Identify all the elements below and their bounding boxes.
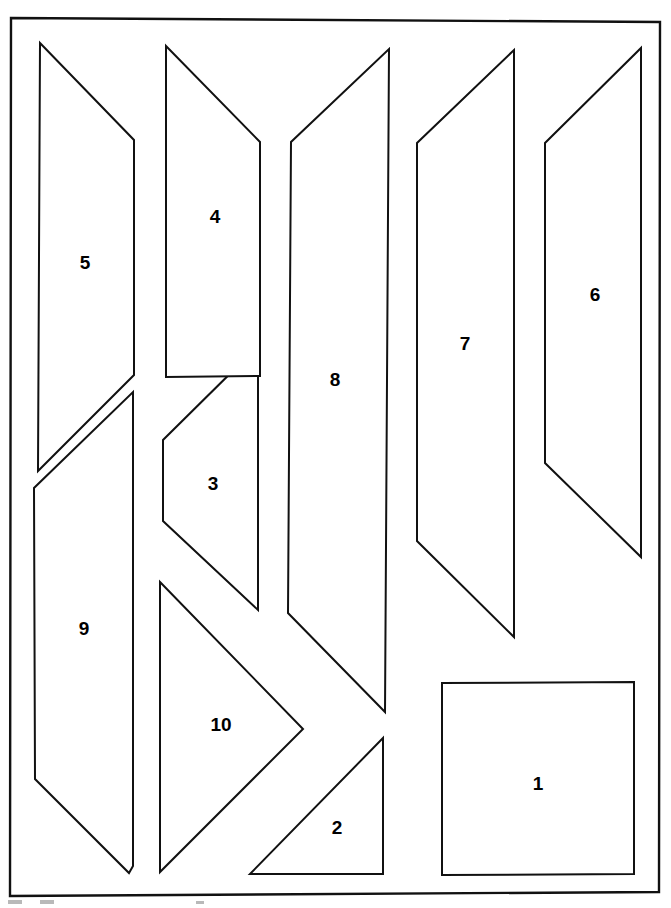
piece-1-label: 1 <box>533 773 544 794</box>
piece-6[interactable]: 6 <box>545 48 641 557</box>
piece-10[interactable]: 10 <box>160 582 303 872</box>
piece-8-label: 8 <box>330 369 341 390</box>
piece-1[interactable]: 1 <box>442 682 634 875</box>
piece-9[interactable]: 9 <box>34 392 133 873</box>
puzzle-pieces-group: 12345678910 <box>34 43 641 875</box>
piece-4[interactable]: 4 <box>166 46 260 377</box>
piece-8[interactable]: 8 <box>288 49 389 712</box>
piece-5-label: 5 <box>80 252 91 273</box>
piece-7-label: 7 <box>460 333 471 354</box>
puzzle-diagram: 12345678910 <box>0 0 671 908</box>
piece-7[interactable]: 7 <box>417 50 514 637</box>
puzzle-sheet: 12345678910 <box>0 0 671 908</box>
piece-10-label: 10 <box>210 714 231 735</box>
edge-mark-second <box>40 900 54 904</box>
edge-mark-left <box>8 900 22 904</box>
piece-3-label: 3 <box>208 473 219 494</box>
bottom-edge-marks <box>8 900 204 904</box>
edge-mark-third <box>196 901 204 904</box>
piece-2-label: 2 <box>332 817 343 838</box>
piece-4-label: 4 <box>210 206 221 227</box>
piece-9-label: 9 <box>79 618 90 639</box>
piece-3[interactable]: 3 <box>163 346 258 610</box>
piece-6-label: 6 <box>590 284 601 305</box>
